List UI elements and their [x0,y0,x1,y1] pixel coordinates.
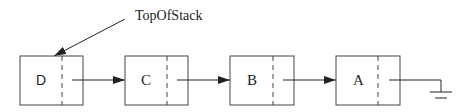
top-of-stack-label: TopOfStack [135,8,202,23]
node-d-label: D [36,72,46,88]
null-ground-icon [389,80,452,98]
node-c-label: C [141,72,151,88]
linked-stack-diagram: TopOfStack D C B A [0,0,467,112]
node-a-label: A [353,72,364,88]
top-pointer-arrow [54,19,125,56]
node-b-label: B [247,72,257,88]
